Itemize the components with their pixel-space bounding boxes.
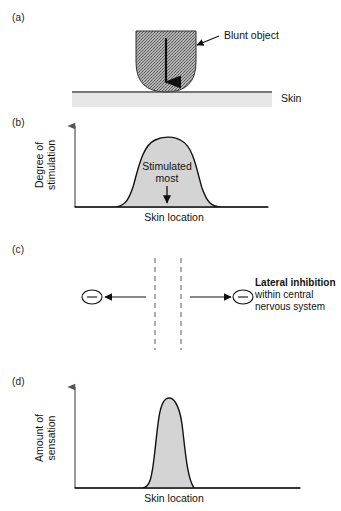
panel-letter-d: (d) [12,376,25,387]
blunt-object-leader-arrow [197,36,219,45]
lateral-inhibition-line2: within central [255,289,336,301]
skin-label: Skin [281,92,301,104]
blunt-object-shape [136,31,196,92]
panel-d-y-axis-label-line2: sensation [45,416,57,461]
lateral-inhibition-callout: Lateral inhibition within central nervou… [255,277,336,314]
panel-d-curve [75,398,300,488]
panel-b-y-axis-label-line2: stimulation [45,140,57,190]
blunt-object-label: Blunt object [224,29,279,41]
stimulated-most-line2: most [156,172,179,184]
panel-d-y-axis-label-line1: Amount of [33,414,45,462]
panel-b-y-axis-label: Degree of stimulation [34,122,57,208]
minus-node-right [233,290,253,304]
panel-d-y-axis-label: Amount of sensation [34,386,57,490]
figure-root: (a) (b) (c) (d) [0,0,341,511]
panel-c-group [82,258,253,350]
panel-letter-b: (b) [12,117,25,128]
panel-letter-c: (c) [12,244,24,255]
minus-node-left [82,290,102,304]
panel-d-group [75,387,300,488]
panel-letter-a: (a) [12,12,25,23]
skin-band [72,93,272,107]
stimulated-most-line1: Stimulated [142,160,192,172]
lateral-inhibition-title: Lateral inhibition [255,277,336,289]
lateral-inhibition-line3: nervous system [255,301,336,313]
panel-a-group [72,31,272,107]
panel-d-x-axis-label: Skin location [104,492,244,504]
panel-b-x-axis-label: Skin location [104,211,244,223]
panel-b-y-axis-label-line1: Degree of [33,142,45,188]
stimulated-most-annotation: Stimulated most [127,160,207,184]
